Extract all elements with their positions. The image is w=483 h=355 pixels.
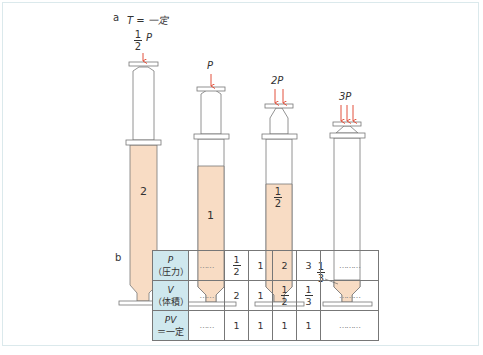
row-header-volume: V（体積）: [153, 281, 189, 311]
table-row-volume: V（体積） …… 2 1 12 13 ………: [153, 281, 379, 311]
table-row-pressure: P（圧力） …… 12 1 2 3 ………: [153, 251, 379, 281]
panel-b-label: b: [115, 252, 121, 263]
cell: ……: [189, 251, 225, 281]
cell: 1: [225, 311, 249, 341]
cell: ……: [189, 311, 225, 341]
numerator: 1: [275, 186, 281, 197]
cell: ……: [189, 281, 225, 311]
cell: 2: [225, 281, 249, 311]
volume-label-2: 2: [140, 185, 147, 198]
row-header-pv: PV＝一定: [153, 311, 189, 341]
cell: 1: [249, 251, 273, 281]
cell: 1: [249, 311, 273, 341]
cell: ………: [321, 251, 379, 281]
cell: ………: [321, 281, 379, 311]
pv-table: P（圧力） …… 12 1 2 3 ……… V（体積） …… 2 1 12 13…: [152, 250, 379, 341]
cell-half: 12: [273, 281, 297, 311]
row-header-pressure: P（圧力）: [153, 251, 189, 281]
denominator: 2: [275, 198, 281, 209]
table-row-pv: PV＝一定 …… 1 1 1 1 ………: [153, 311, 379, 341]
cell: ………: [321, 311, 379, 341]
cell: 1: [273, 311, 297, 341]
cell: 1: [249, 281, 273, 311]
cell-half: 12: [225, 251, 249, 281]
volume-label-1: 1: [207, 209, 214, 222]
cell: 1: [297, 311, 321, 341]
cell-third: 13: [297, 281, 321, 311]
pressure-arrows: [143, 53, 353, 121]
cell: 2: [273, 251, 297, 281]
cell: 3: [297, 251, 321, 281]
volume-label-half: 1 2: [274, 186, 282, 209]
